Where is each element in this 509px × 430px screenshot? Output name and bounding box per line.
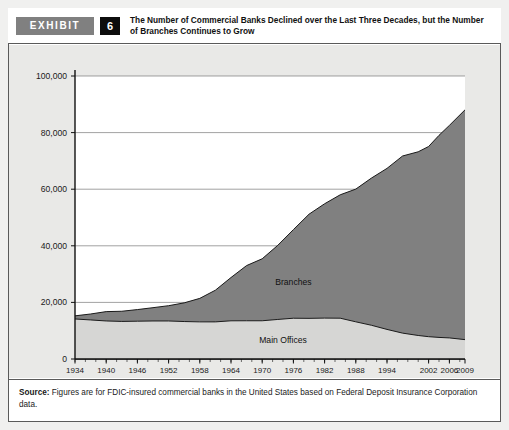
x-tick-label-7: 1976 [285, 366, 303, 375]
series-annotation-main-offices: Main Offices [259, 335, 307, 345]
y-tick-label-0: 0 [62, 354, 67, 364]
x-tick-label-4: 1958 [191, 366, 209, 375]
series-annotation-branches: Branches [275, 277, 311, 287]
source-text: Figures are for FDIC-insured commercial … [19, 388, 477, 409]
x-tick-label-3: 1952 [160, 366, 178, 375]
x-tick-label-8: 1982 [316, 366, 334, 375]
y-tick-label-4: 80,000 [41, 128, 68, 138]
x-tick-label-13: 2009 [456, 366, 474, 375]
x-tick-label-11: 2002 [420, 366, 438, 375]
exhibit-title: The Number of Commercial Banks Declined … [130, 15, 493, 37]
exhibit-badge: EXHIBIT [16, 17, 94, 35]
chart-plot-wrapper: 020,00040,00060,00080,000100,00019341940… [9, 45, 500, 378]
source-paragraph: Source: Figures are for FDIC-insured com… [19, 387, 490, 412]
x-tick-label-0: 1934 [66, 366, 84, 375]
y-tick-label-1: 20,000 [41, 297, 68, 307]
x-tick-label-9: 1988 [347, 366, 365, 375]
x-tick-label-2: 1946 [129, 366, 147, 375]
stacked-area-chart: 020,00040,00060,00080,000100,00019341940… [9, 45, 500, 378]
y-tick-label-2: 40,000 [41, 241, 68, 251]
x-tick-label-1: 1940 [97, 366, 115, 375]
exhibit-header: EXHIBIT 6 The Number of Commercial Banks… [8, 8, 501, 44]
y-tick-label-3: 60,000 [41, 184, 68, 194]
chart-panel: 020,00040,00060,00080,000100,00019341940… [9, 45, 500, 378]
x-tick-label-10: 1994 [378, 366, 396, 375]
x-tick-label-6: 1970 [253, 366, 271, 375]
exhibit-number-badge: 6 [100, 17, 120, 35]
source-label: Source: [19, 388, 49, 397]
source-note: Source: Figures are for FDIC-insured com… [9, 379, 500, 421]
y-tick-label-5: 100,000 [36, 71, 67, 81]
exhibit-page: EXHIBIT 6 The Number of Commercial Banks… [0, 0, 509, 430]
x-tick-label-5: 1964 [222, 366, 240, 375]
